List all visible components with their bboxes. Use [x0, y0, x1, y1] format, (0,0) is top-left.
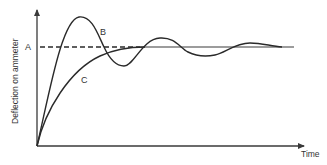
curve-b: [37, 17, 282, 146]
ammeter-deflection-diagram: A B C Time Deflection on ammeter: [0, 0, 327, 165]
curve-c-label: C: [81, 75, 88, 85]
curve-b-label: B: [100, 27, 106, 37]
x-axis-label: Time: [301, 149, 320, 159]
y-axis-label: Deflection on ammeter: [10, 38, 20, 124]
curve-c: [37, 47, 145, 146]
steady-level-label-a: A: [25, 42, 31, 52]
